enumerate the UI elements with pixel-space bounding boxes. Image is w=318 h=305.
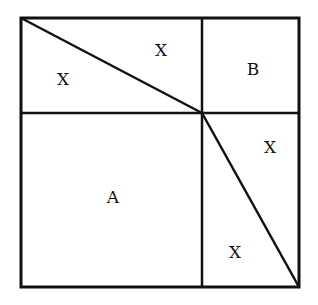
label-x-right-upper: X [264,139,276,156]
label-x-top-left-upper: X [155,42,167,59]
label-region-a: A [107,189,119,206]
label-x-right-lower: X [229,244,241,261]
diagonal-top-left [21,18,202,113]
square-partition-diagram: X X B X A X [0,0,318,305]
diagonal-bottom-right [202,113,299,287]
label-region-b: B [247,61,260,78]
label-x-top-left-lower: X [57,71,69,88]
